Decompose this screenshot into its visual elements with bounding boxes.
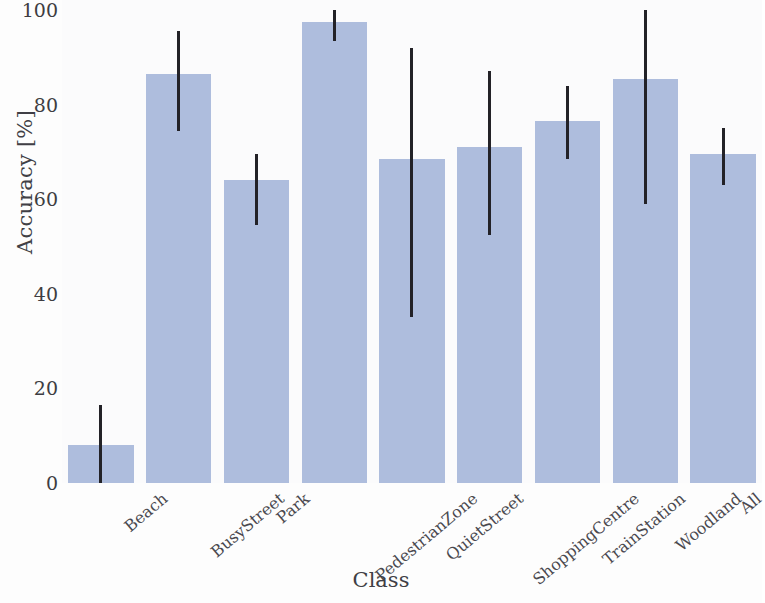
bar-group bbox=[140, 0, 218, 483]
x-axis-tick-beach: Beach bbox=[120, 489, 171, 536]
x-axis-tick-busystreet: BusyStreet bbox=[207, 489, 288, 561]
error-bar bbox=[410, 48, 413, 318]
error-bar bbox=[333, 10, 336, 41]
error-bar bbox=[99, 405, 102, 483]
bar bbox=[302, 22, 367, 483]
bar bbox=[690, 154, 755, 483]
y-axis-tick-100: 100 bbox=[16, 0, 58, 21]
error-bar bbox=[566, 86, 569, 159]
x-axis-tick-all: All bbox=[736, 489, 765, 518]
bar-group bbox=[218, 0, 296, 483]
y-axis-tick-40: 40 bbox=[16, 283, 58, 305]
x-axis-label: Class bbox=[0, 568, 762, 592]
bar-group bbox=[451, 0, 529, 483]
error-bar bbox=[177, 31, 180, 130]
y-axis-tick-20: 20 bbox=[16, 377, 58, 399]
bar-group bbox=[684, 0, 762, 483]
bar-group bbox=[373, 0, 451, 483]
bar-group bbox=[62, 0, 140, 483]
y-axis-tick-60: 60 bbox=[16, 188, 58, 210]
error-bar bbox=[255, 154, 258, 225]
plot-area bbox=[62, 0, 762, 483]
error-bar bbox=[488, 71, 491, 234]
bar-group bbox=[529, 0, 607, 483]
error-bar bbox=[722, 128, 725, 185]
bar bbox=[224, 180, 289, 483]
x-axis-tick-trainstation: TrainStation bbox=[599, 489, 689, 569]
y-axis-tick-80: 80 bbox=[16, 94, 58, 116]
error-bar bbox=[644, 10, 647, 204]
x-axis-tick-labels: BeachBusyStreetParkPedestrianZoneQuietSt… bbox=[62, 483, 762, 573]
bar bbox=[146, 74, 211, 483]
y-axis-tick-labels: 020406080100 bbox=[0, 0, 58, 603]
y-axis-tick-0: 0 bbox=[16, 472, 58, 494]
bar bbox=[535, 121, 600, 483]
bar-group bbox=[606, 0, 684, 483]
bar-group bbox=[295, 0, 373, 483]
